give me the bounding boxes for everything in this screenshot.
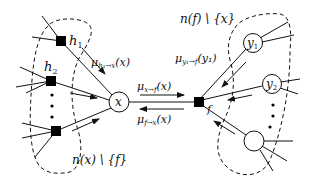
ellipsis-dot [268,125,271,128]
ellipsis-dot [50,115,53,118]
factor-node-f [194,97,204,107]
label-h1: h1 [69,33,82,50]
ellipsis-dot [50,104,53,107]
arrow-y1-to-f [222,62,246,87]
message-h1-to-x: μh₁→x(x) [91,56,130,70]
stub [281,79,300,82]
arrow-hn-to-x [72,119,99,131]
label-f: f [206,103,213,116]
label-h2: h2 [44,59,57,76]
arrow-y2-to-f [228,95,252,100]
arrow-h2-to-x [70,93,97,98]
set-label-left: n(x) \ {f} [72,153,127,167]
set-label-right: n(f) \ {x} [180,12,235,26]
factor-node-h1 [56,36,66,46]
label-x: x [115,95,122,109]
ellipsis-dot [271,114,274,117]
stub [22,123,56,131]
arrow-yn-to-f [214,121,235,134]
message-y1-to-f: μy₁→f(y₁) [175,52,217,66]
message-f-to-x: μf→x(x) [137,113,171,127]
ellipsis-dot [271,103,274,106]
edge-h2-x [51,81,109,100]
stub [280,88,298,94]
variable-node-yn [244,131,264,151]
ellipsis-dot [50,93,53,96]
factor-node-h2 [46,76,56,86]
stub [260,150,273,171]
edge-f-y2 [202,86,262,100]
factor-node-hn [51,126,61,136]
factor-graph-diagram: x h1 h2 f y1 y2 μh₁→x(x) μx→f(x) μf→x(x)… [0,0,317,183]
stub [260,22,288,38]
message-x-to-f: μx→f(x) [137,80,171,94]
stub [262,35,294,42]
edge-hn-x [56,108,111,131]
